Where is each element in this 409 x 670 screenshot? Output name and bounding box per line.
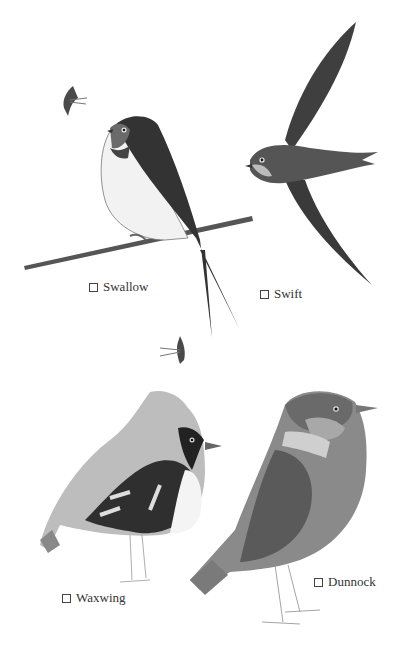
- checklist-item-dunnock[interactable]: Dunnock: [314, 574, 376, 590]
- swallow-label: Swallow: [103, 279, 149, 295]
- swift-label: Swift: [274, 286, 302, 302]
- waxwing-checkbox[interactable]: [62, 594, 71, 603]
- checklist-item-swift[interactable]: Swift: [260, 286, 302, 302]
- small-swallow-icon: [160, 336, 185, 364]
- swift-illustration: [245, 22, 378, 285]
- swift-checkbox[interactable]: [260, 290, 269, 299]
- illustration-canvas: [0, 0, 409, 670]
- waxwing-label: Waxwing: [76, 590, 126, 606]
- swallow-illustration: [24, 116, 253, 338]
- dunnock-label: Dunnock: [328, 574, 376, 590]
- checklist-item-swallow[interactable]: Swallow: [89, 279, 149, 295]
- waxwing-illustration: [40, 391, 222, 582]
- checklist-item-waxwing[interactable]: Waxwing: [62, 590, 126, 606]
- small-swallow-icon: [63, 86, 87, 116]
- dunnock-checkbox[interactable]: [314, 578, 323, 587]
- swallow-checkbox[interactable]: [89, 283, 98, 292]
